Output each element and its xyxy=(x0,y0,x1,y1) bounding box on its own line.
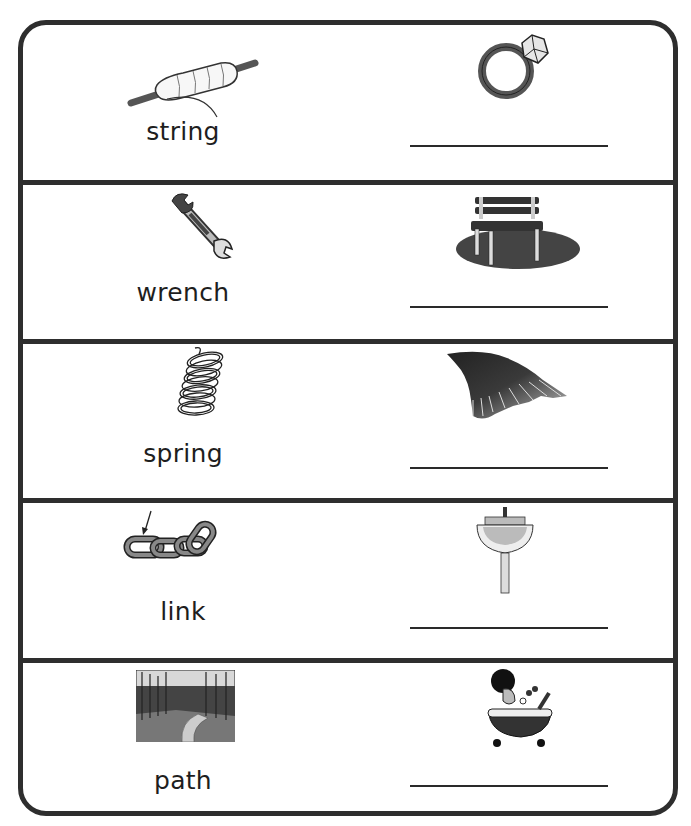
word-label: wrench xyxy=(83,278,283,307)
ring-icon xyxy=(478,31,558,101)
coil-spring-icon xyxy=(173,346,233,426)
row-string: string xyxy=(23,25,673,180)
row-wrench: wrench xyxy=(23,185,673,339)
forest-path-icon xyxy=(136,670,235,742)
answer-line-5[interactable] xyxy=(410,785,608,787)
word-label: path xyxy=(83,766,283,795)
spool-of-string-icon xyxy=(123,41,263,121)
answer-line-1[interactable] xyxy=(410,145,608,147)
row-path: path xyxy=(23,663,673,811)
bath-icon xyxy=(485,667,555,747)
row-link: link xyxy=(23,503,673,658)
wrench-icon xyxy=(168,191,238,261)
word-label: string xyxy=(83,117,283,146)
row-spring: spring xyxy=(23,344,673,498)
worksheet-frame: string wrench xyxy=(18,20,678,816)
word-label: spring xyxy=(83,439,283,468)
bird-wing-icon xyxy=(443,350,583,425)
word-label: link xyxy=(83,597,283,626)
answer-line-2[interactable] xyxy=(410,306,608,308)
park-bench-icon xyxy=(453,191,583,271)
answer-line-3[interactable] xyxy=(410,467,608,469)
sink-icon xyxy=(475,507,535,597)
chain-link-icon xyxy=(123,505,233,575)
answer-line-4[interactable] xyxy=(410,627,608,629)
